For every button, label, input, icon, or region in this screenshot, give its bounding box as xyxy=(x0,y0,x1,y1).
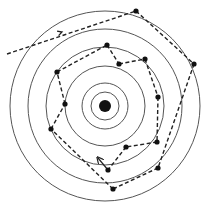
nucleus-dot xyxy=(99,100,111,112)
trajectory-node xyxy=(105,167,110,172)
trajectory-node xyxy=(110,186,115,191)
trajectory-nodes xyxy=(48,8,196,191)
trajectory-node xyxy=(48,126,53,131)
trajectory-node xyxy=(116,61,121,66)
entry-arrow-icon xyxy=(57,31,62,36)
trajectory-node xyxy=(142,56,147,61)
path-segment xyxy=(51,104,65,129)
path-segment xyxy=(113,168,158,189)
trajectory-node xyxy=(154,139,159,144)
orbit-diagram xyxy=(0,0,204,213)
path-segment xyxy=(108,147,126,170)
path-segment xyxy=(119,59,145,64)
trajectory-node xyxy=(155,94,160,99)
path-segment xyxy=(136,11,194,64)
trajectory-node xyxy=(191,61,196,66)
trajectory-node xyxy=(133,8,138,13)
trajectory-path xyxy=(7,11,194,189)
trajectory-node xyxy=(104,42,109,47)
orbit-diagram-canvas xyxy=(0,0,204,213)
trajectory-node xyxy=(54,69,59,74)
trajectory-node xyxy=(62,101,67,106)
path-segment xyxy=(126,142,157,147)
path-segment xyxy=(57,72,65,104)
path-segment xyxy=(57,45,107,72)
path-segment xyxy=(157,97,158,142)
trajectory-node xyxy=(123,144,128,149)
trajectory-node xyxy=(155,165,160,170)
